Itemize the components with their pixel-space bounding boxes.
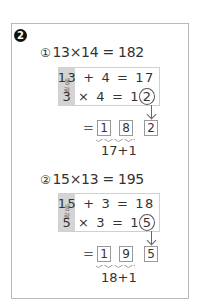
answer-digit-box: 8: [119, 120, 133, 136]
problem-1-product-prefix: 3 × 4 = 1: [62, 89, 140, 104]
answer-digit-box: 1: [97, 246, 111, 262]
answer-digit-box: 2: [144, 120, 158, 136]
problem-1-product-line: 3 × 4 = 12: [62, 88, 155, 105]
problem-1-equals: =: [83, 120, 94, 135]
problem-2-sum-line: 15 + 3 = 18: [58, 196, 155, 211]
problem-number-badge: 2: [14, 29, 27, 42]
problem-1-carry-sum: 17+1: [101, 143, 137, 158]
problem-2-equation-text: 15×13 = 195: [52, 171, 143, 187]
problem-1-shortcut-box: 생 략 13 + 4 = 17 3 × 4 = 12: [58, 67, 160, 106]
wavy-brace: [96, 265, 135, 269]
answer-digit-box: 1: [97, 120, 111, 136]
problem-2-marker: ②: [40, 173, 50, 187]
problem-2-carry-sum: 18+1: [101, 270, 137, 285]
answer-digit-box: 9: [119, 246, 133, 262]
problem-2-product-line: 5 × 3 = 15: [62, 214, 155, 231]
problem-1-sum-line: 13 + 4 = 17: [58, 70, 155, 85]
answer-digit-box: 5: [144, 246, 158, 262]
problem-2-product-prefix: 5 × 3 = 1: [62, 215, 140, 230]
problem-1-equation-text: 13×14 = 182: [52, 44, 143, 60]
circled-digit: 5: [139, 214, 155, 231]
problem-2-equation: ②15×13 = 195: [40, 171, 144, 187]
circled-digit: 2: [139, 88, 155, 105]
problem-2-shortcut-box: 생 략 15 + 3 = 18 5 × 3 = 15: [58, 193, 160, 232]
problem-1-marker: ①: [40, 46, 50, 60]
problem-2-equals: =: [83, 246, 94, 261]
problem-1-equation: ①13×14 = 182: [40, 44, 144, 60]
